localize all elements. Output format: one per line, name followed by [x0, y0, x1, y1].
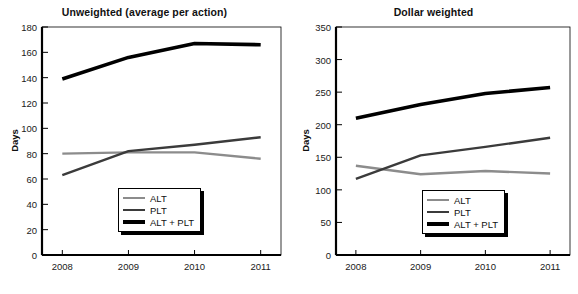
legend-item-plt: PLT [427, 206, 498, 218]
series-line-alt-plt [356, 88, 550, 119]
legend-label-plt: PLT [150, 205, 167, 216]
legend-item-plt: PLT [123, 204, 194, 216]
legend-item-alt: ALT [123, 192, 194, 204]
chart-panel-dollar-weighted: Dollar weighted Days 0501001502002503003… [289, 0, 578, 294]
legend-swatch-plt [427, 211, 449, 213]
series-line-alt-plt [62, 43, 260, 78]
legend-item-alt-plt: ALT + PLT [123, 216, 194, 228]
legend-item-alt: ALT [427, 194, 498, 206]
figure-two-panel-line-charts: Unweighted (average per action) Days 020… [0, 0, 578, 294]
legend-label-alt: ALT [150, 193, 167, 204]
legend-swatch-alt [427, 199, 449, 201]
plot-area-unweighted [0, 0, 289, 294]
chart-legend: ALT PLT ALT + PLT [422, 190, 505, 234]
legend-swatch-alt [123, 197, 145, 199]
legend-swatch-alt-plt [123, 220, 145, 224]
legend-label-plt: PLT [454, 207, 471, 218]
legend-label-alt-plt: ALT + PLT [150, 217, 194, 228]
legend-swatch-plt [123, 209, 145, 211]
chart-panel-unweighted: Unweighted (average per action) Days 020… [0, 0, 289, 294]
plot-area-dollar-weighted [289, 0, 578, 294]
legend-swatch-alt-plt [427, 222, 449, 226]
legend-item-alt-plt: ALT + PLT [427, 218, 498, 230]
legend-label-alt-plt: ALT + PLT [454, 219, 498, 230]
legend-label-alt: ALT [454, 195, 471, 206]
series-line-alt [62, 152, 260, 158]
chart-legend: ALT PLT ALT + PLT [118, 188, 201, 232]
